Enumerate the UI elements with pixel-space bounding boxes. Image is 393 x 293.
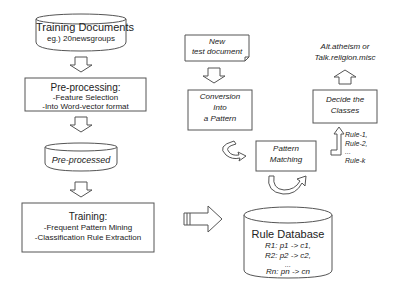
preprocessed-label: Pre-processed — [45, 155, 117, 165]
rule-2: R2: p2 -> c2, — [244, 252, 332, 261]
arrow-down-icon — [70, 182, 92, 197]
preprocessing-title: Pre-processing: — [25, 82, 146, 93]
conversion-line-1: Conversion — [188, 93, 252, 102]
arrow-down-icon — [70, 57, 92, 72]
arrow-down-icon — [70, 117, 92, 132]
curved-arrow-icon — [269, 176, 306, 194]
decide-line-1: Decide the — [313, 96, 377, 105]
rules-out-line-2: Rule-2, — [345, 140, 368, 148]
rules-out-line-4: Rule-k — [345, 157, 365, 165]
arrow-up-icon — [334, 70, 356, 84]
pattern-matching-line-2: Matching — [256, 156, 316, 165]
new-document-line-2: test document — [185, 48, 249, 57]
training-documents-title: Training Documents — [36, 21, 126, 33]
rules-out-line-1: Rule-1, — [345, 131, 368, 139]
rules-up-arrow-icon — [331, 127, 344, 155]
classes-line-2: Talk.religion.misc — [300, 54, 390, 63]
arrow-down-icon — [203, 68, 225, 83]
conversion-line-2: Into — [188, 104, 252, 113]
training-title: Training: — [22, 211, 154, 222]
rule-database-title: Rule Database — [244, 228, 332, 240]
arrow-right-icon — [184, 206, 222, 232]
training-documents-subtitle: eg.) 20newsgroups — [36, 35, 126, 44]
curved-arrow-icon — [222, 141, 246, 161]
rule-n: Rn: pn -> cn — [244, 268, 332, 277]
classes-line-1: Alt.atheism or — [300, 43, 390, 52]
pattern-matching-line-1: Pattern — [256, 145, 316, 154]
rule-1: R1: p1 -> c1, — [244, 242, 332, 251]
new-document-line-1: New — [185, 38, 249, 47]
conversion-line-3: a Pattern — [188, 115, 252, 124]
decide-line-2: Classes — [313, 107, 377, 116]
rules-out-line-3: ... — [345, 148, 351, 156]
training-line-2: -Classification Rule Extraction — [22, 234, 154, 243]
preprocessing-line-2: -Into Word-vector format — [25, 103, 146, 112]
training-line-1: -Frequent Pattern Mining — [22, 224, 154, 233]
